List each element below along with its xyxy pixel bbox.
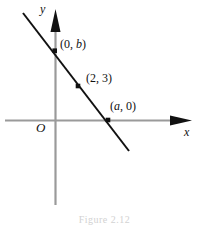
y-axis-label: y <box>40 3 45 15</box>
label-y-intercept: (0, b) <box>60 38 86 50</box>
y-axis-arrowhead <box>51 9 61 32</box>
graph-canvas <box>0 0 209 225</box>
point-marker-y-intercept <box>52 48 57 53</box>
x-axis-arrowhead <box>170 116 192 126</box>
origin-label: O <box>36 121 45 134</box>
label-x-intercept: (a, 0) <box>110 100 136 112</box>
figure-caption: Figure 2.12 <box>0 214 209 225</box>
point-marker-x-intercept <box>106 118 111 123</box>
x-axis-label: x <box>184 126 189 138</box>
point-marker-mid <box>76 84 81 89</box>
coordinate-plane-figure: y x O (0, b) (2, 3) (a, 0) Figure 2.12 <box>0 0 209 225</box>
label-point-2-3: (2, 3) <box>86 72 112 84</box>
